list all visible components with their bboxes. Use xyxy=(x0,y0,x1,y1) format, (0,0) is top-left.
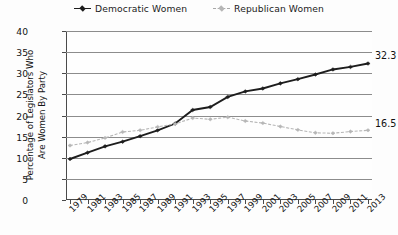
democratic-end-value: 32.3 xyxy=(375,49,396,60)
legend-label-democratic-women: Democratic Women xyxy=(95,3,187,14)
legend-swatch-republican-icon xyxy=(213,4,230,13)
legend-item-democratic-women: Democratic Women xyxy=(74,3,187,14)
data-point-marker xyxy=(121,130,125,133)
legend-label-republican-women: Republican Women xyxy=(234,3,324,14)
data-point-marker xyxy=(296,128,300,131)
data-point-marker xyxy=(226,115,230,118)
y-tick-label: 25 xyxy=(0,89,28,100)
legend-item-republican-women: Republican Women xyxy=(213,3,324,14)
series-republican-women xyxy=(68,115,370,147)
data-point-marker xyxy=(138,129,142,132)
series-line xyxy=(70,64,368,159)
chart-legend: Democratic Women Republican Women xyxy=(0,3,398,14)
legend-swatch-democratic-icon xyxy=(74,4,91,13)
data-point-marker xyxy=(348,130,352,133)
line-chart: Democratic Women Republican Women Percen… xyxy=(0,0,398,235)
data-point-marker xyxy=(68,144,72,147)
data-point-marker xyxy=(86,141,90,144)
y-tick-label: 20 xyxy=(0,110,28,121)
data-point-marker xyxy=(243,119,247,122)
series-layer xyxy=(66,31,372,200)
data-point-marker xyxy=(331,132,335,135)
y-tick-label: 10 xyxy=(0,152,28,163)
y-tick-label: 35 xyxy=(0,47,28,58)
y-tick-label: 15 xyxy=(0,131,28,142)
data-point-marker xyxy=(366,129,370,132)
data-point-marker xyxy=(208,118,212,121)
republican-end-value: 16.5 xyxy=(375,118,396,129)
series-democratic-women xyxy=(68,62,370,161)
plot-area: 1979198119831985198719891991199319951997… xyxy=(66,31,372,200)
y-axis-title-line-2: Are Women By Party xyxy=(36,50,48,181)
data-point-marker xyxy=(313,131,317,134)
data-point-marker xyxy=(278,125,282,128)
data-point-marker xyxy=(103,136,107,139)
data-point-marker xyxy=(261,121,265,124)
data-point-marker xyxy=(191,116,195,119)
y-tick-label: 0 xyxy=(0,195,28,206)
series-line xyxy=(70,117,368,145)
data-point-marker xyxy=(156,125,160,128)
y-tick-label: 30 xyxy=(0,68,28,79)
y-tick-mark xyxy=(62,200,66,201)
y-tick-label: 40 xyxy=(0,26,28,37)
y-tick-label: 5 xyxy=(0,173,28,184)
